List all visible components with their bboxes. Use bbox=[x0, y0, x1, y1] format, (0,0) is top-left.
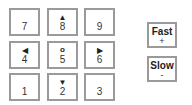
key-7[interactable]: 7 bbox=[9, 8, 40, 36]
key-5-center[interactable]: o 5 bbox=[47, 41, 78, 69]
key-2-label: 2 bbox=[49, 86, 76, 97]
key-3-label: 3 bbox=[86, 86, 113, 97]
key-4-label: 4 bbox=[11, 54, 38, 65]
key-3[interactable]: 3 bbox=[84, 73, 115, 101]
plus-icon: + bbox=[149, 37, 175, 46]
fast-button[interactable]: Fast + bbox=[147, 22, 177, 48]
key-1-label: 1 bbox=[11, 86, 38, 97]
key-2-down[interactable]: ▼ 2 bbox=[47, 73, 78, 101]
key-9[interactable]: 9 bbox=[84, 8, 115, 36]
minus-icon: - bbox=[149, 71, 175, 80]
key-6-right[interactable]: ▶ 6 bbox=[84, 41, 115, 69]
slow-button[interactable]: Slow - bbox=[147, 56, 177, 82]
key-8-label: 8 bbox=[49, 21, 76, 32]
center-dot-icon: o bbox=[49, 46, 76, 54]
key-6-label: 6 bbox=[86, 54, 113, 65]
key-9-label: 9 bbox=[86, 21, 113, 32]
key-4-left[interactable]: ◀ 4 bbox=[9, 41, 40, 69]
key-5-label: 5 bbox=[49, 54, 76, 65]
key-1[interactable]: 1 bbox=[9, 73, 40, 101]
key-8-up[interactable]: ▲ 8 bbox=[47, 8, 78, 36]
key-7-label: 7 bbox=[11, 21, 38, 32]
